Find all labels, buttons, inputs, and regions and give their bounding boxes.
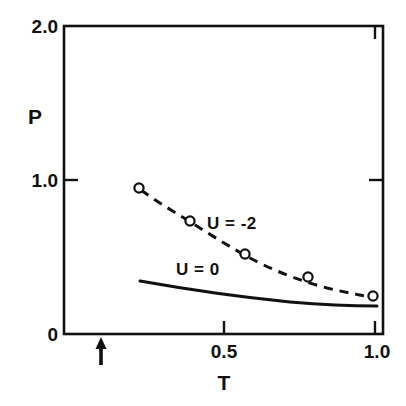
- y-axis-tick-label-zero: 0: [47, 324, 58, 345]
- series-u0: [140, 281, 377, 306]
- y-axis-tick-label-mid: 1.0: [32, 170, 58, 191]
- data-markers: [134, 183, 377, 300]
- data-point: [185, 216, 194, 225]
- tick-marks: [64, 26, 383, 334]
- x-axis-title: T: [218, 371, 231, 394]
- data-point: [303, 272, 312, 281]
- series-u-minus-2: [134, 183, 377, 300]
- data-point: [368, 291, 377, 300]
- axes-border: [64, 26, 383, 334]
- data-point: [240, 249, 249, 258]
- x-axis-tick-label-max: 1.0: [364, 341, 390, 362]
- curve-u-minus-2-dashed: [141, 190, 372, 297]
- figure-container: 2.0 1.0 0 P 0.5 1.0 T U = -2 U = 0: [0, 0, 406, 406]
- data-point: [134, 183, 143, 192]
- arrow-marker-icon: [96, 337, 107, 365]
- plot-canvas: 2.0 1.0 0 P 0.5 1.0 T U = -2 U = 0: [0, 0, 406, 406]
- curve-label-u-minus-2: U = -2: [207, 214, 257, 233]
- y-axis-tick-label-top: 2.0: [32, 16, 58, 37]
- y-axis-title: P: [28, 105, 42, 128]
- x-axis-tick-label-mid: 0.5: [211, 341, 238, 362]
- plot-frame: [64, 26, 383, 334]
- curve-label-u0: U = 0: [176, 260, 220, 279]
- arrow-shaft: [99, 347, 103, 365]
- curve-u0-solid: [140, 281, 377, 306]
